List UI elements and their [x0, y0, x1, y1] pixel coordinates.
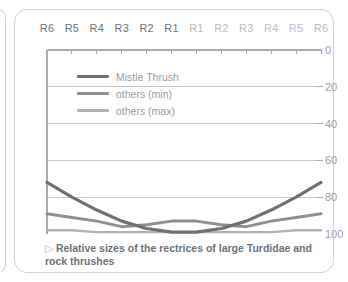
x-axis-label-7: R2	[208, 22, 234, 34]
legend-label: Mistle Thrush	[116, 71, 179, 83]
legend-item-1: others (min)	[77, 85, 227, 102]
legend-swatch-icon	[77, 109, 109, 111]
x-axis-label-0: R6	[34, 22, 60, 34]
series-line-mistle-thrush	[47, 182, 321, 232]
x-axis-labels: R6R5R4R3R2R1R1R2R3R4R5R6	[33, 22, 329, 40]
line-chart	[33, 22, 329, 234]
x-axis-label-9: R4	[258, 22, 284, 34]
x-axis-label-6: R1	[183, 22, 209, 34]
x-axis-label-10: R5	[283, 22, 309, 34]
x-axis-label-8: R3	[233, 22, 259, 34]
x-axis-label-3: R3	[109, 22, 135, 34]
x-axis-label-4: R2	[134, 22, 160, 34]
chart-plot-area: R6R5R4R3R2R1R1R2R3R4R5R6 020406080100 Mi…	[33, 22, 329, 234]
legend-item-2: others (max)	[77, 102, 227, 119]
x-axis-label-2: R4	[84, 22, 110, 34]
legend-item-0: Mistle Thrush	[77, 68, 227, 85]
figure-card: R6R5R4R3R2R1R1R2R3R4R5R6 020406080100 Mi…	[14, 9, 334, 273]
y-axis-label-60: 60	[325, 154, 337, 166]
y-axis-label-0: 0	[325, 44, 331, 56]
x-axis-label-11: R6	[308, 22, 334, 34]
legend-swatch-icon	[77, 75, 109, 78]
x-axis-label-1: R5	[59, 22, 85, 34]
y-axis-label-80: 80	[325, 191, 337, 203]
adjacent-page-card-edge	[0, 8, 6, 274]
y-axis-label-40: 40	[325, 118, 337, 130]
legend-label: others (min)	[116, 88, 172, 100]
y-axis-label-100: 100	[325, 228, 343, 240]
y-axis-label-20: 20	[325, 81, 337, 93]
legend-swatch-icon	[77, 92, 109, 95]
caption-text: Relative sizes of the rectrices of large…	[45, 242, 312, 267]
caption-triangle-icon: ▷	[45, 242, 53, 254]
series-line-others-min-	[47, 214, 321, 227]
x-axis-label-5: R1	[159, 22, 185, 34]
legend-label: others (max)	[116, 105, 175, 117]
series-lines	[47, 182, 321, 232]
chart-legend: Mistle Thrushothers (min)others (max)	[77, 68, 227, 119]
figure-caption: ▷ Relative sizes of the rectrices of lar…	[45, 242, 313, 268]
